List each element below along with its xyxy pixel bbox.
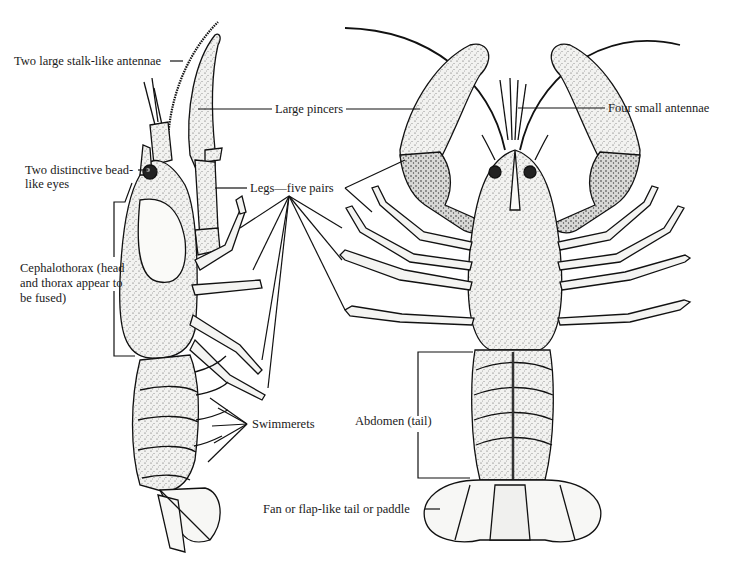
label-swimmerets: Swimmerets [252,417,315,431]
label-abdomen: Abdomen (tail) [355,414,432,428]
label-cephalothorax-line3: be fused) [20,291,66,305]
side-eye [143,165,157,179]
top-eye-right [524,166,536,178]
label-eyes-line2: like eyes [25,177,69,191]
label-small-antennae: Four small antennae [608,101,709,115]
label-large-antennae: Two large stalk-like antennae [14,54,161,68]
side-view [120,22,265,552]
label-large-pincers: Large pincers [275,102,343,116]
crayfish-diagram: Two large stalk-like antennae Two distin… [0,0,744,574]
label-tail-fan: Fan or flap-like tail or paddle [263,502,410,516]
side-abdomen [133,355,199,492]
top-eye-left [489,166,501,178]
label-legs: Legs—five pairs [250,181,334,195]
label-cephalothorax-line1: Cephalothorax (head [20,261,124,275]
label-cephalothorax-line2: and thorax appear to [20,276,122,290]
label-eyes-line1: Two distinctive bead- [25,163,133,177]
